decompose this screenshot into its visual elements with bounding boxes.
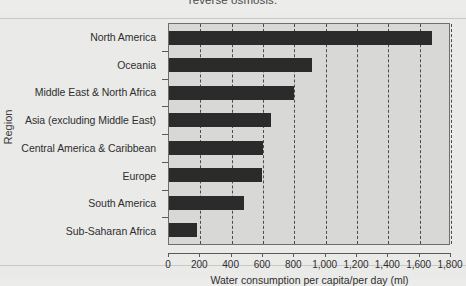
x-tick-label: 0 — [165, 259, 171, 270]
y-tick — [162, 217, 168, 218]
gridline — [451, 24, 452, 244]
category-label: Central America & Caribbean — [14, 134, 161, 162]
x-tick-label: 600 — [254, 259, 271, 270]
bar — [169, 168, 262, 182]
bar — [169, 113, 271, 127]
category-label: Oceania — [14, 51, 161, 79]
bar-row — [169, 79, 449, 107]
category-label: North America — [14, 23, 161, 51]
x-axis-line — [168, 253, 451, 254]
x-tick-label: 800 — [285, 259, 302, 270]
bar — [169, 86, 294, 100]
x-tick — [168, 253, 169, 257]
category-label: Middle East & North Africa — [14, 79, 161, 107]
bar — [169, 141, 263, 155]
bar-row — [169, 217, 449, 245]
x-tick — [387, 253, 388, 257]
y-tick — [162, 106, 168, 107]
bar — [169, 196, 244, 210]
x-tick-label: 1,800 — [437, 259, 462, 270]
x-tick-label: 1,400 — [375, 259, 400, 270]
x-tick — [293, 253, 294, 257]
category-label: South America — [14, 190, 161, 218]
bar-row — [169, 189, 449, 217]
bar-row — [169, 162, 449, 190]
caption-fragment: reverse osmosis. — [0, 0, 466, 6]
y-tick — [162, 134, 168, 135]
category-label-column: North AmericaOceaniaMiddle East & North … — [14, 23, 161, 245]
x-axis-title: Water consumption per capita/per day (ml… — [168, 274, 451, 286]
x-tick-label: 200 — [191, 259, 208, 270]
bar — [169, 223, 197, 237]
figure-top-rule — [0, 18, 466, 19]
bar — [169, 58, 312, 72]
x-tick-label: 400 — [222, 259, 239, 270]
x-tick — [199, 253, 200, 257]
bar-series — [169, 24, 449, 244]
bar-row — [169, 134, 449, 162]
y-tick — [162, 79, 168, 80]
x-tick-label: 1,200 — [343, 259, 368, 270]
y-axis-title: Region — [2, 97, 14, 157]
bar — [169, 31, 432, 45]
chart-figure: Region North AmericaOceaniaMiddle East &… — [0, 13, 466, 279]
x-tick-labels: 02004006008001,0001,2001,4001,6001,800 — [168, 259, 451, 273]
x-tick — [325, 253, 326, 257]
y-tick — [162, 51, 168, 52]
category-label: Sub-Saharan Africa — [14, 217, 161, 245]
x-tick-label: 1,600 — [406, 259, 431, 270]
y-tick — [162, 190, 168, 191]
x-tick-label: 1,000 — [312, 259, 337, 270]
bar-row — [169, 107, 449, 135]
x-tick — [262, 253, 263, 257]
x-tick — [356, 253, 357, 257]
bar-row — [169, 52, 449, 80]
category-label: Asia (excluding Middle East) — [14, 106, 161, 134]
category-label: Europe — [14, 162, 161, 190]
x-tick — [419, 253, 420, 257]
x-tick — [450, 253, 451, 257]
x-tick — [231, 253, 232, 257]
bar-row — [169, 24, 449, 52]
plot-area — [168, 23, 450, 245]
y-tick — [162, 162, 168, 163]
